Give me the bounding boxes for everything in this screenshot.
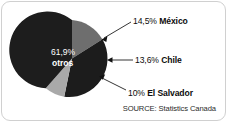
callout-name-mexico: México xyxy=(159,16,188,26)
callout-pct-chile: 13,6% xyxy=(135,55,159,65)
callout-pct-mexico: 14,5% xyxy=(133,16,157,26)
callout-label-chile: 13,6% Chile xyxy=(135,55,182,65)
leader-arrow-chile xyxy=(107,57,113,62)
callout-label-el-salvador: 10% El Salvador xyxy=(128,88,193,98)
slice-label-otros-name: otros xyxy=(52,58,74,68)
source-note: SOURCE: Statistics Canada xyxy=(123,104,216,113)
callout-name-chile: Chile xyxy=(161,55,182,65)
chart-frame: 61,9% otros 14,5% México 13,6% Chile 10%… xyxy=(1,1,226,121)
slice-label-otros-pct: 61,9% xyxy=(51,47,76,57)
callout-name-el-salvador: El Salvador xyxy=(147,88,193,98)
callout-pct-el-salvador: 10% xyxy=(128,88,145,98)
leader-line-el-salvador xyxy=(102,78,126,90)
leader-line-mexico xyxy=(104,22,131,38)
callout-label-mexico: 14,5% México xyxy=(133,16,188,26)
